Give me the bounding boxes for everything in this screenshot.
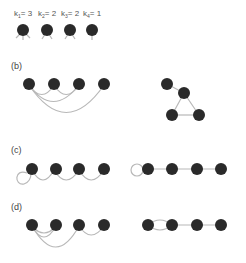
panel-b: (b) (11, 61, 205, 121)
graph-node-4 (215, 163, 227, 175)
graph-node-2 (166, 163, 178, 175)
node-4 (98, 78, 110, 90)
node-1 (26, 219, 38, 231)
degree-label-3: k3= 2 (61, 9, 80, 19)
graph-node-1 (178, 87, 190, 99)
panel-b-label: (b) (11, 61, 22, 71)
graph-node-3 (193, 109, 205, 121)
panel-d: (d) (11, 202, 227, 247)
node-4 (98, 219, 110, 231)
node-1 (23, 78, 35, 90)
panel-c-graph (131, 163, 227, 176)
self-loop (131, 164, 143, 176)
node-3 (73, 219, 85, 231)
panel-d-label: (d) (11, 202, 22, 212)
node-1 (26, 163, 38, 175)
node-2 (41, 24, 53, 36)
node-2 (50, 219, 62, 231)
graph-node-2 (166, 219, 178, 231)
configuration-model-diagram: k1= 3 k2= 2 k3= 2 k4= 1 (b) (0, 0, 246, 263)
node-1 (17, 24, 29, 36)
panel-b-graph (161, 78, 205, 121)
node-4 (98, 163, 110, 175)
panel-c: (c) (11, 145, 227, 184)
degree-label-4: k4= 1 (83, 9, 102, 19)
panel-b-edges (29, 85, 104, 113)
panel-d-graph (142, 219, 227, 231)
degree-label-1: k1= 3 (14, 9, 33, 19)
panel-c-label: (c) (11, 145, 22, 155)
degree-label-2: k2= 2 (38, 9, 57, 19)
panel-a: k1= 3 k2= 2 k3= 2 k4= 1 (14, 9, 102, 40)
node-3 (73, 163, 85, 175)
panel-d-edges (32, 226, 104, 247)
node-2 (48, 78, 60, 90)
graph-node-4 (215, 219, 227, 231)
node-3 (73, 78, 85, 90)
graph-node-2 (166, 109, 178, 121)
graph-node-3 (191, 163, 203, 175)
node-3 (64, 24, 76, 36)
graph-node-1 (142, 219, 154, 231)
graph-node-3 (191, 219, 203, 231)
node-4 (86, 24, 98, 36)
graph-node-1 (142, 163, 154, 175)
node-2 (50, 163, 62, 175)
graph-node-4 (161, 78, 173, 90)
